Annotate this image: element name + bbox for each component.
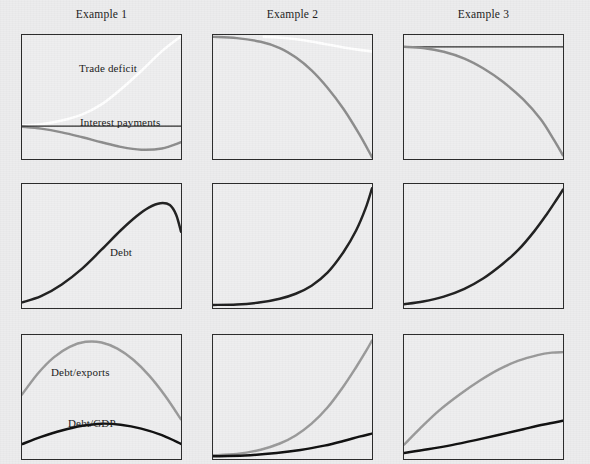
series-trade-deficit xyxy=(22,36,181,125)
plot-panel-r1-c2 xyxy=(212,34,373,160)
series-debt xyxy=(22,203,181,302)
column-header-example-3: Example 3 xyxy=(403,8,564,20)
plot-panel-r3-c3 xyxy=(403,334,564,460)
series-interest-payments xyxy=(22,127,181,150)
plot-panel-r1-c1 xyxy=(21,34,182,160)
label-debt-exports: Debt/exports xyxy=(51,366,110,378)
series-debt-exports xyxy=(22,341,181,419)
plot-panel-r3-c2 xyxy=(212,334,373,460)
label-interest-payments: Interest payments xyxy=(80,116,160,128)
plot-panel-r2-c2 xyxy=(212,183,373,309)
series-debt xyxy=(213,188,372,305)
plot-panel-r2-c1 xyxy=(21,183,182,309)
label-debt: Debt xyxy=(110,246,132,258)
series-debt-exports xyxy=(404,352,563,445)
label-trade-deficit: Trade deficit xyxy=(79,62,137,74)
series-debt-gdp xyxy=(404,421,563,453)
label-debt-gdp: Debt/GDP xyxy=(68,417,116,429)
series-debt-exports xyxy=(213,341,372,456)
column-header-example-2: Example 2 xyxy=(212,8,373,20)
series-interest-payments xyxy=(404,47,563,156)
economic-scenarios-figure: Example 1 Example 2 Example 3 Trade defi… xyxy=(0,0,590,464)
column-header-example-1: Example 1 xyxy=(21,8,182,20)
plot-panel-r3-c1 xyxy=(21,334,182,460)
plot-panel-r1-c3 xyxy=(403,34,564,160)
series-interest-payments xyxy=(213,37,372,157)
plot-panel-r2-c3 xyxy=(403,183,564,309)
series-debt xyxy=(404,190,563,305)
